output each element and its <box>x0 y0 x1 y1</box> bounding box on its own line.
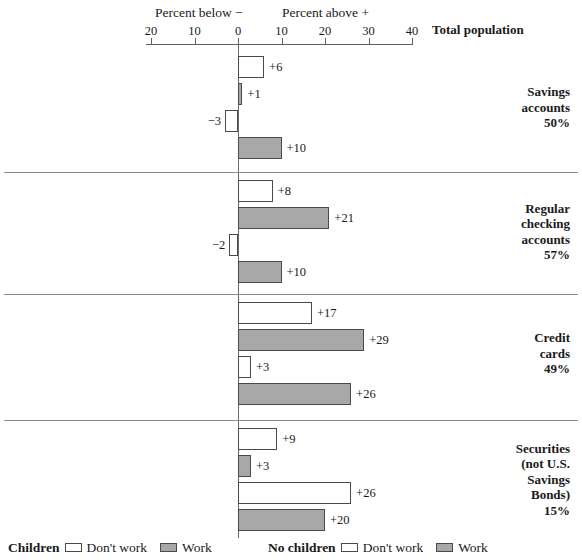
axis-caption-above: Percent above + <box>282 5 369 21</box>
group-label-line: Savings <box>430 472 570 488</box>
bar-savings-accounts-2 <box>238 83 242 105</box>
bar-securities-2 <box>238 455 251 477</box>
bar-value-label: +17 <box>317 302 337 324</box>
bar-credit-cards-3 <box>238 356 251 378</box>
group-label-line: Credit <box>430 330 570 346</box>
group-label-savings-accounts: Savingsaccounts50% <box>430 84 570 131</box>
group-label-regular-checking-accounts: Regularcheckingaccounts57% <box>430 201 570 263</box>
legend-swatch-gray <box>436 543 453 552</box>
group-label-line: 49% <box>430 361 570 377</box>
group-label-line: accounts <box>430 100 570 116</box>
bar-value-label: +29 <box>369 329 389 351</box>
group-separator <box>4 294 578 295</box>
group-label-credit-cards: Creditcards49% <box>430 330 570 377</box>
group-label-line: Securities <box>430 441 570 457</box>
group-label-line: cards <box>430 346 570 362</box>
group-label-line: accounts <box>430 232 570 248</box>
bar-value-label: +1 <box>247 83 260 105</box>
bar-value-label: +20 <box>330 509 350 531</box>
chart-root: Percent below − Percent above + 20100102… <box>0 0 582 560</box>
bar-value-label: +3 <box>256 356 269 378</box>
bar-savings-accounts-1 <box>238 56 264 78</box>
legend-group-title: Children <box>8 540 60 555</box>
bar-securities-1 <box>238 428 277 450</box>
group-label-line: Bonds) <box>430 487 570 503</box>
group-label-line: 15% <box>430 503 570 519</box>
bar-value-label: +10 <box>287 137 307 159</box>
group-label-line: Savings <box>430 84 570 100</box>
group-label-line: checking <box>430 216 570 232</box>
axis-tick-label: 0 <box>235 24 241 39</box>
bar-value-label: +21 <box>334 207 354 229</box>
legend-group-title: No children <box>268 540 336 555</box>
legend-group-no-children: No childrenDon't workWork <box>268 540 501 556</box>
bar-value-label: +3 <box>256 455 269 477</box>
group-label-securities: Securities(not U.S.SavingsBonds)15% <box>430 441 570 519</box>
bar-securities-4 <box>238 509 325 531</box>
group-label-line: (not U.S. <box>430 456 570 472</box>
bar-value-label: +9 <box>282 428 295 450</box>
legend-item-label: Work <box>458 540 488 555</box>
bar-value-label: −3 <box>197 110 221 132</box>
bar-value-label: +8 <box>278 180 291 202</box>
bar-credit-cards-1 <box>238 302 312 324</box>
total-population-label: Total population <box>432 22 542 37</box>
axis-tick-label: 20 <box>319 24 332 39</box>
bar-credit-cards-4 <box>238 383 351 405</box>
axis-tick-label: 20 <box>145 24 158 39</box>
bar-value-label: +10 <box>287 261 307 283</box>
axis-tick-mark <box>412 38 413 45</box>
legend-swatch-gray <box>160 543 177 552</box>
bar-securities-3 <box>238 482 351 504</box>
bar-regular-checking-accounts-3 <box>229 234 238 256</box>
legend-swatch-white <box>341 543 358 552</box>
legend-item-label: Don't work <box>87 540 148 555</box>
bar-value-label: +26 <box>356 482 376 504</box>
group-separator <box>4 172 578 173</box>
legend-group-children: ChildrenDon't workWork <box>8 540 225 556</box>
chart-legend: ChildrenDon't workWorkNo childrenDon't w… <box>0 540 582 560</box>
legend-swatch-white <box>65 543 82 552</box>
axis-tick-label: 10 <box>188 24 201 39</box>
axis-line <box>146 44 412 45</box>
bar-savings-accounts-3 <box>225 110 238 132</box>
bar-value-label: −2 <box>201 234 225 256</box>
bar-value-label: +26 <box>356 383 376 405</box>
legend-item-label: Work <box>182 540 212 555</box>
axis-tick-label: 30 <box>362 24 375 39</box>
axis-tick-label: 10 <box>275 24 288 39</box>
group-label-line: 50% <box>430 115 570 131</box>
bar-savings-accounts-4 <box>238 137 282 159</box>
bar-regular-checking-accounts-2 <box>238 207 329 229</box>
group-label-line: 57% <box>430 247 570 263</box>
bar-value-label: +6 <box>269 56 282 78</box>
legend-item-label: Don't work <box>363 540 424 555</box>
bar-regular-checking-accounts-4 <box>238 261 282 283</box>
bar-regular-checking-accounts-1 <box>238 180 273 202</box>
bar-credit-cards-2 <box>238 329 364 351</box>
group-label-line: Regular <box>430 201 570 217</box>
group-separator <box>4 420 578 421</box>
axis-tick-label: 40 <box>406 24 419 39</box>
axis-caption-below: Percent below − <box>155 5 243 21</box>
